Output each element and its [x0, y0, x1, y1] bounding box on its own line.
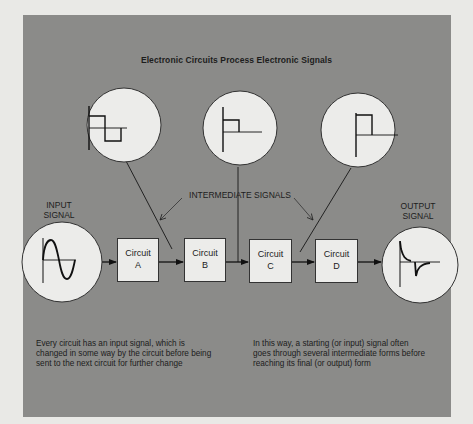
circuit-b-box: Circuit B — [184, 238, 226, 282]
input-signal-circle — [22, 222, 102, 302]
caption-right: In this way, a starting (or input) signa… — [253, 339, 453, 369]
caption-left: Every circuit has an input signal, which… — [36, 339, 236, 369]
circuit-a-box: Circuit A — [117, 238, 159, 282]
intermediate-pointer-left — [160, 198, 182, 220]
intermediate-pointer-right — [294, 198, 313, 220]
input-signal-label: INPUT SIGNAL — [34, 200, 84, 220]
circuit-d-box: Circuit D — [315, 239, 358, 283]
intermediate-signals-label: INTERMEDIATE SIGNALS — [184, 190, 296, 200]
intermediate-signal-3-circle — [321, 93, 398, 167]
circuit-c-box: Circuit C — [249, 239, 292, 283]
output-signal-label: OUTPUT SIGNAL — [394, 201, 442, 221]
intermediate-signal-1-circle — [87, 88, 161, 162]
output-signal-circle — [382, 227, 458, 303]
intermediate-signal-2-circle — [203, 91, 277, 165]
connector-line-1 — [126, 161, 172, 249]
